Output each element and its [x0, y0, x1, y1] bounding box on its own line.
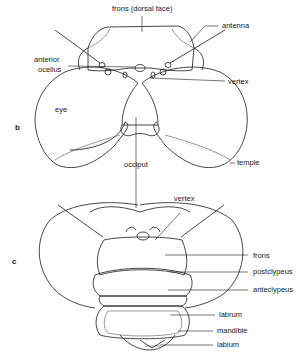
label-occiput: occiput [124, 161, 148, 169]
panel-b-leaders [68, 16, 235, 208]
label-frons-dorsal: frons (dorsal face) [112, 5, 172, 13]
panel-label-b: b [15, 123, 20, 132]
label-temple: temple [237, 159, 260, 167]
label-anterior-ocellus-line2: ocellus [38, 66, 61, 74]
label-eye: eye [55, 106, 67, 114]
panel-label-c: c [12, 257, 16, 266]
panel-b-drawing [35, 26, 247, 168]
label-postclypeus: postclypeus [253, 268, 293, 276]
label-vertex-b: vertex [228, 78, 248, 86]
label-antenna: antenna [222, 22, 249, 30]
label-labrum: labrum [219, 311, 242, 319]
insect-head-diagram [0, 0, 299, 359]
label-anteclypeus: anteclypeus [253, 286, 293, 294]
label-frons: frons [253, 252, 270, 260]
label-vertex-c: vertex [174, 195, 194, 203]
label-mandible: mandible [217, 327, 247, 335]
panel-c-drawing [39, 203, 243, 350]
label-labium: labium [217, 341, 239, 349]
label-anterior-ocellus-line1: anterior [34, 56, 59, 64]
